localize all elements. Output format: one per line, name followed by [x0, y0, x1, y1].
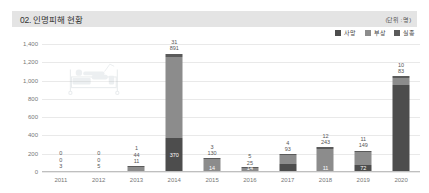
bar-segment-부상[interactable]	[166, 57, 183, 138]
stacked-bar[interactable]: 11	[317, 147, 334, 172]
bar-value-label: 5	[97, 163, 100, 169]
bar-value-label: 0	[59, 157, 62, 163]
unit-label: (단위 : 명)	[386, 15, 411, 24]
x-axis-tick-2016: 2016	[243, 177, 256, 183]
stacked-bar[interactable]	[279, 154, 296, 172]
x-axis-tick-2015: 2015	[205, 177, 218, 183]
stacked-bar[interactable]: 72	[355, 151, 372, 172]
bar-chart: 0032011005201214411201337031891201414313…	[0, 40, 429, 193]
bar-group-2014[interactable]: 370318912014	[155, 44, 193, 172]
legend-swatch-icon	[335, 30, 341, 36]
x-axis-tick-2012: 2012	[92, 177, 105, 183]
legend-swatch-icon	[394, 30, 400, 36]
bar-value-label: 3	[59, 163, 62, 169]
bar-value-labels: 005	[97, 150, 100, 169]
bar-value-label: 243	[321, 139, 330, 145]
legend-item-label: 사망	[344, 30, 356, 36]
y-axis-tick: 1,000	[23, 78, 38, 84]
bar-value-labels: 11149	[359, 136, 368, 149]
bar-group-2016[interactable]: 145252016	[231, 44, 269, 172]
bar-value-label: 44	[133, 152, 139, 158]
legend-item-label: 실종	[403, 30, 415, 36]
bar-value-label: 891	[170, 45, 179, 51]
bar-group-2013[interactable]: 144112013	[118, 44, 156, 172]
bar-segment-부상[interactable]	[355, 152, 372, 166]
bar-value-label: 93	[285, 146, 291, 152]
bar-group-2020[interactable]: 10832020	[382, 44, 420, 172]
bar-value-labels: 525	[247, 153, 253, 166]
y-axis-tick: 1,200	[23, 59, 38, 65]
bar-segment-부상[interactable]	[279, 155, 296, 164]
stacked-bar[interactable]	[393, 76, 410, 172]
bar-group-2017[interactable]: 4932017	[269, 44, 307, 172]
bar-value-label: 130	[207, 150, 216, 156]
y-axis-tick: 200	[28, 151, 38, 157]
bar-value-labels: 493	[285, 140, 291, 153]
x-axis-tick-2013: 2013	[130, 177, 143, 183]
casualty-status-panel: 02. 인명피해 현황 (단위 : 명) 사망부상실종	[0, 0, 429, 193]
stacked-bar[interactable]: 14	[204, 158, 221, 172]
y-axis-tick: 1,400	[23, 41, 38, 47]
y-axis-tick: 600	[28, 114, 38, 120]
bar-value-label: 149	[359, 142, 368, 148]
bar-value-labels: 003	[59, 150, 62, 169]
x-axis-tick-2014: 2014	[168, 177, 181, 183]
plot-area: 0032011005201214411201337031891201414313…	[42, 44, 420, 172]
x-axis-line	[42, 171, 420, 172]
bar-segment-부상[interactable]	[393, 78, 410, 86]
bar-value-label-death: 370	[170, 153, 179, 159]
bar-group-2012[interactable]: 0052012	[80, 44, 118, 172]
x-axis-tick-2018: 2018	[319, 177, 332, 183]
bar-value-labels: 3130	[207, 144, 216, 157]
bar-group-2011[interactable]: 0032011	[42, 44, 80, 172]
page-title: 02. 인명피해 현황	[20, 13, 82, 25]
bar-value-label: 83	[398, 68, 404, 74]
bar-group-2018[interactable]: 11122432018	[307, 44, 345, 172]
gridline	[42, 172, 420, 173]
panel-header: 02. 인명피해 현황 (단위 : 명)	[12, 11, 417, 27]
bar-value-label: 25	[247, 160, 253, 166]
x-axis-tick-2020: 2020	[394, 177, 407, 183]
bar-value-label: 11	[133, 158, 139, 164]
legend-item-label: 부상	[374, 30, 386, 36]
y-axis-tick: 800	[28, 96, 38, 102]
legend-item-실종[interactable]: 실종	[394, 30, 415, 36]
legend-swatch-icon	[365, 30, 371, 36]
legend-item-부상[interactable]: 부상	[365, 30, 386, 36]
bar-value-labels: 12243	[321, 133, 330, 146]
stacked-bar[interactable]: 370	[166, 54, 183, 172]
y-axis-tick: 400	[28, 132, 38, 138]
x-axis-tick-2011: 2011	[54, 177, 67, 183]
bar-value-label: 0	[97, 157, 100, 163]
x-axis-tick-2019: 2019	[357, 177, 370, 183]
legend-item-사망[interactable]: 사망	[335, 30, 356, 36]
x-axis-tick-2017: 2017	[281, 177, 294, 183]
bar-group-2015[interactable]: 1431302015	[193, 44, 231, 172]
bar-series-container: 0032011005201214411201337031891201414313…	[42, 44, 420, 172]
chart-legend: 사망부상실종	[335, 30, 415, 36]
bar-segment-사망[interactable]	[393, 85, 410, 172]
bar-group-2019[interactable]: 72111492019	[344, 44, 382, 172]
bar-value-labels: 31891	[170, 39, 179, 52]
bar-value-labels: 14411	[133, 145, 139, 164]
y-axis-tick: 0	[35, 169, 38, 175]
bar-value-labels: 1083	[398, 62, 404, 75]
